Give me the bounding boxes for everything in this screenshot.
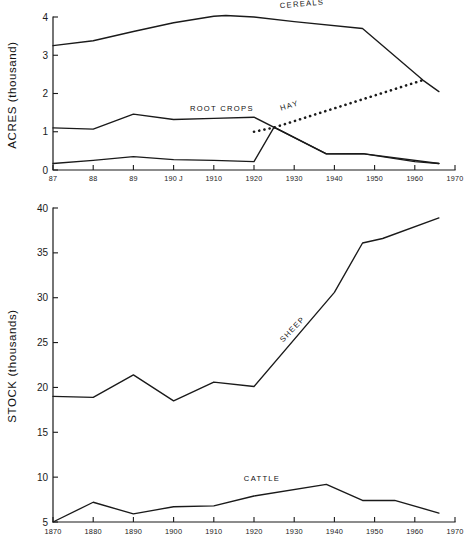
x-tick-label: 88 <box>89 174 97 183</box>
y-tick-label: 5 <box>42 517 48 528</box>
series-group: SHEEPCATTLE <box>53 218 439 522</box>
y-tick-label: 3 <box>42 50 48 61</box>
x-tick-label: 1870 <box>44 527 61 536</box>
series-label-hay: HAY <box>279 99 300 113</box>
y-tick-label: 1 <box>42 126 48 137</box>
y-tick-label: 25 <box>37 337 49 348</box>
figure-container: 878889190 J19101920193019401950196019700… <box>0 0 464 546</box>
series-label-cereals: CEREALS <box>279 0 324 10</box>
x-tick-label: 1920 <box>246 174 263 183</box>
x-tick-label: 1960 <box>406 174 423 183</box>
axis-lines <box>53 17 455 170</box>
series-label-root-crops: ROOT CROPS <box>190 104 254 113</box>
x-tick-label: 1950 <box>366 527 383 536</box>
x-tick-label: 1900 <box>165 527 182 536</box>
x-tick-label: 1960 <box>406 527 423 536</box>
y-tick-label: 20 <box>37 382 49 393</box>
y-tick-label: 40 <box>37 203 49 214</box>
y-tick-label: 4 <box>42 12 48 23</box>
x-tick-label: 1940 <box>326 527 343 536</box>
y-tick-label: 10 <box>37 472 49 483</box>
series-line-cereals <box>53 15 439 91</box>
y-tick-label: 30 <box>37 292 49 303</box>
y-tick-label: 0 <box>42 165 48 176</box>
series-line-unlabeled <box>53 127 439 163</box>
acreage-chart: 878889190 J19101920193019401950196019700… <box>0 0 464 192</box>
x-tick-label: 1930 <box>286 174 303 183</box>
series-line-sheep <box>53 218 439 401</box>
x-tick-label: 1940 <box>326 174 343 183</box>
y-tick-label: 15 <box>37 427 49 438</box>
x-tick-label: 1920 <box>245 527 262 536</box>
x-tick-label: 89 <box>129 174 137 183</box>
x-tick-label: 1970 <box>446 527 463 536</box>
series-group: CEREALSROOT CROPSHAY <box>53 0 439 164</box>
axes-group: 1870188018901900191019201930194019501960… <box>37 203 464 536</box>
y-tick-label: 35 <box>37 247 49 258</box>
x-tick-label: 1890 <box>125 527 142 536</box>
x-tick-label: 1880 <box>85 527 102 536</box>
x-tick-label: 190 J <box>164 174 183 183</box>
livestock-chart: 1870188018901900191019201930194019501960… <box>0 186 464 546</box>
series-label-cattle: CATTLE <box>244 474 280 483</box>
x-tick-label: 1910 <box>205 174 222 183</box>
x-tick-label: 87 <box>49 174 57 183</box>
x-tick-label: 1950 <box>366 174 383 183</box>
y-axis-title: STOCK (thousands) <box>6 309 18 423</box>
y-axis-title: ACRES (thousand) <box>6 41 18 148</box>
y-tick-label: 2 <box>42 88 48 99</box>
x-tick-label: 1930 <box>286 527 303 536</box>
series-line-cattle <box>53 484 439 522</box>
x-tick-label: 1910 <box>205 527 222 536</box>
x-tick-label: 1970 <box>447 174 464 183</box>
